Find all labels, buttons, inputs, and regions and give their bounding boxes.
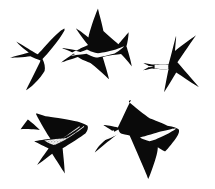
- birds-illustration-canvas: [0, 0, 215, 189]
- illustration-background: [0, 0, 215, 189]
- swallows-illustration: [0, 0, 215, 189]
- rump-band-top-right: [155, 64, 169, 69]
